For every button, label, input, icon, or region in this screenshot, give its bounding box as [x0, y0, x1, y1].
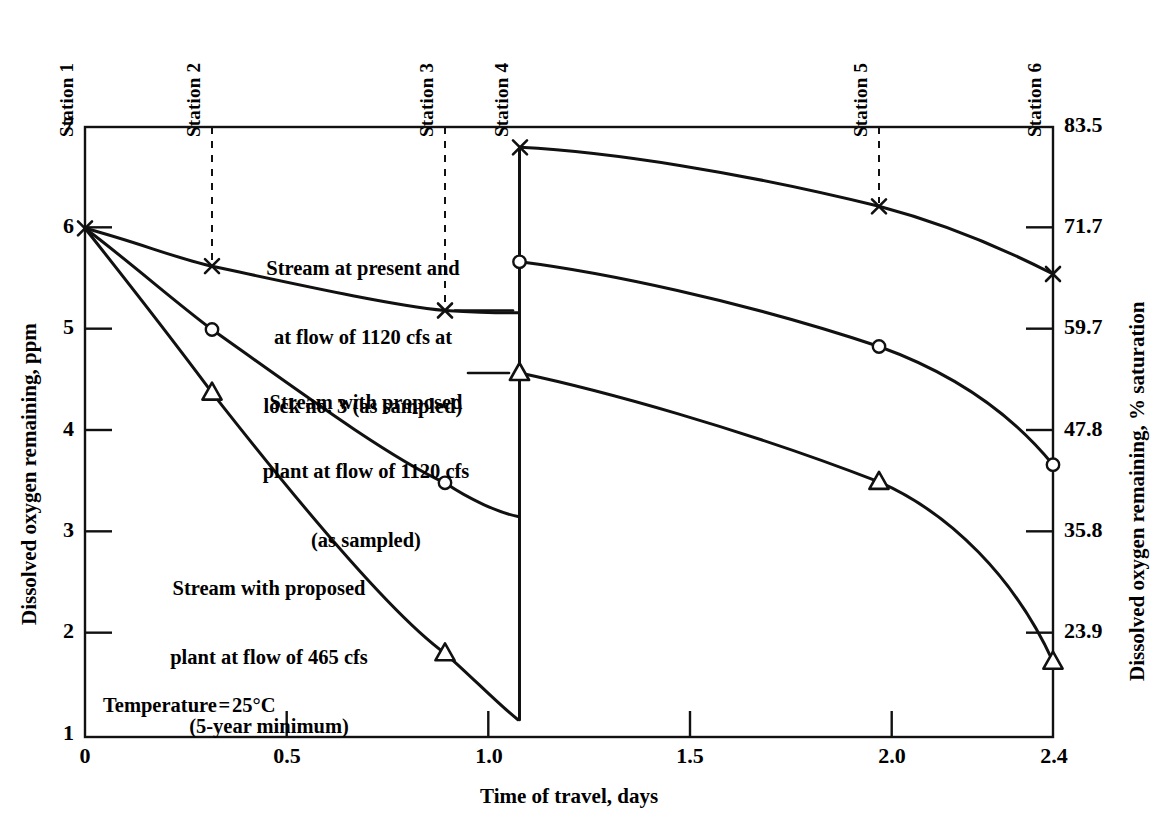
annotation-proposed-1120-line1: Stream with proposed	[227, 391, 505, 414]
right-axis-title: Dissolved oxygen remaining, % saturation	[1127, 302, 1148, 681]
left-axis-ticks	[85, 227, 112, 632]
annotation-proposed-465-line1: Stream with proposed	[129, 577, 409, 600]
marker-circle	[1047, 459, 1059, 471]
right-tick-47-8: 47.8	[1064, 418, 1103, 440]
station-label-4: Station 4	[492, 63, 511, 137]
station-label-2: Station 2	[184, 63, 203, 137]
series-present-flow-markers	[78, 140, 1060, 317]
station-label-6: Station 6	[1025, 63, 1044, 137]
marker-triangle	[435, 643, 454, 660]
bottom-tick-0: 0	[55, 745, 115, 767]
right-tick-83-5: 83.5	[1064, 114, 1103, 136]
left-tick-7: 7	[28, 114, 74, 136]
marker-circle	[206, 323, 218, 335]
right-tick-71-7: 71.7	[1064, 215, 1103, 237]
marker-triangle	[1043, 652, 1062, 669]
bottom-tick-1-5: 1.5	[659, 745, 721, 767]
right-axis-ticks	[1026, 227, 1053, 632]
left-tick-1: 1	[28, 722, 74, 744]
right-tick-59-7: 59.7	[1064, 316, 1103, 338]
chart-figure: Station 1 Station 2 Station 3 Station 4 …	[0, 0, 1167, 820]
marker-circle	[873, 340, 885, 352]
station-label-3: Station 3	[417, 63, 436, 137]
right-tick-23-9: 23.9	[1064, 620, 1103, 642]
bottom-tick-1-0: 1.0	[458, 745, 520, 767]
marker-triangle	[510, 363, 529, 380]
bottom-tick-2-4: 2.4	[1023, 745, 1085, 767]
annotation-proposed-465-line2: plant at flow of 465 cfs	[129, 646, 409, 669]
annotation-proposed-465-line3: (5-year minimum)	[129, 715, 409, 738]
left-tick-6: 6	[28, 215, 74, 237]
annotation-present-flow-line1: Stream at present and	[233, 257, 493, 280]
series-present-flow-curve	[85, 147, 1053, 313]
annotation-proposed-1120-line2: plant at flow of 1120 cfs	[227, 460, 505, 483]
bottom-tick-2-0: 2.0	[861, 745, 923, 767]
marker-circle	[513, 256, 525, 268]
right-tick-35-8: 35.8	[1064, 519, 1103, 541]
bottom-axis-title: Time of travel, days	[480, 786, 658, 807]
annotation-temperature: Temperature = 25°C	[103, 695, 275, 716]
left-axis-title: Dissolved oxygen remaining, ppm	[19, 323, 40, 625]
annotation-proposed-465: Stream with proposed plant at flow of 46…	[129, 531, 409, 783]
station-label-5: Station 5	[851, 63, 870, 137]
